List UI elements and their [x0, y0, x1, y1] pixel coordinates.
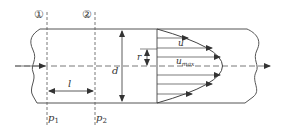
length-label: l — [68, 78, 71, 89]
pressure-2-label: p2 — [96, 112, 107, 125]
velocity-max-label: umax — [176, 56, 195, 67]
pressure-1-label: p1 — [48, 112, 59, 125]
pipe-flow-diagram: ① ② l d r u umax p1 p2 — [0, 0, 282, 131]
radius-label: r — [137, 52, 142, 62]
diameter-label: d — [112, 65, 118, 76]
velocity-label: u — [178, 38, 184, 48]
section-1-marker: ① — [34, 8, 44, 21]
section-2-marker: ② — [82, 8, 92, 21]
